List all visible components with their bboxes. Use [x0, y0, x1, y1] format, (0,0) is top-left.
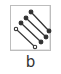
tool-label: b [0, 53, 61, 71]
parallel-lines-connector-icon [11, 6, 52, 52]
parallel-lines-tool-button[interactable] [10, 5, 51, 51]
